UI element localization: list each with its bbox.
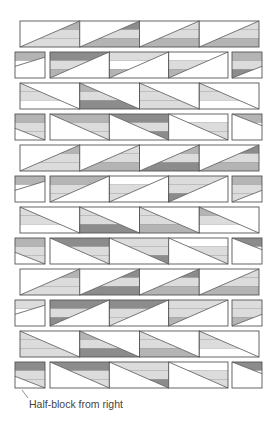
caption-leader-line [22,390,28,398]
row-11-block-1 [20,331,80,357]
row-6-half-block-left [15,176,45,202]
row-9-block-4 [199,269,259,295]
row-4-half-block-right [232,114,262,140]
row-1-block-3 [140,21,200,47]
row-1-block-1 [20,21,80,47]
row-7-block-2 [80,207,140,233]
row-12-block-2 [109,362,168,388]
row-6-block-1 [50,176,109,202]
row-5-block-1 [20,145,80,171]
row-10-block-1 [50,300,109,326]
row-11-block-3 [140,331,200,357]
row-2-block-3 [169,52,228,78]
half-block-caption: Half-block from right [29,398,123,410]
row-8-block-2 [109,238,168,264]
row-9-block-2 [80,269,140,295]
row-6-block-3 [169,176,228,202]
row-8-half-block-right [232,238,262,264]
row-2-half-block-left [15,52,45,78]
row-8-half-block-left [15,238,45,264]
row-12-block-3 [169,362,228,388]
quilt-diagram [0,0,279,426]
row-12-block-1 [50,362,109,388]
row-3-block-4 [199,83,259,109]
row-11-block-4 [199,331,259,357]
row-5-block-3 [140,145,200,171]
row-9-block-1 [20,269,80,295]
row-10-block-2 [109,300,168,326]
row-2-block-2 [109,52,168,78]
row-6-half-block-right [232,176,262,202]
row-7-block-3 [140,207,200,233]
row-10-half-block-left [15,300,45,326]
row-4-block-1 [50,114,109,140]
row-11-block-2 [80,331,140,357]
row-3-block-1 [20,83,80,109]
row-12-half-block-left [15,362,45,388]
row-1-block-2 [80,21,140,47]
row-9-block-3 [140,269,200,295]
row-3-block-2 [80,83,140,109]
row-6-block-2 [109,176,168,202]
row-3-block-3 [140,83,200,109]
row-12-half-block-right [232,362,262,388]
row-2-block-1 [50,52,109,78]
row-7-block-1 [20,207,80,233]
row-5-block-2 [80,145,140,171]
row-10-half-block-right [232,300,262,326]
row-1-block-4 [199,21,259,47]
row-7-block-4 [199,207,259,233]
row-4-half-block-left [15,114,45,140]
row-4-block-3 [169,114,228,140]
row-4-block-2 [109,114,168,140]
row-2-half-block-right [232,52,262,78]
row-5-block-4 [199,145,259,171]
row-10-block-3 [169,300,228,326]
row-8-block-3 [169,238,228,264]
row-8-block-1 [50,238,109,264]
